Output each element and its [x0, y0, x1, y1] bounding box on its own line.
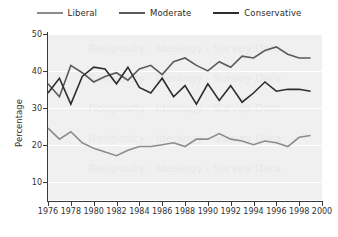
- plot-area: Religiosity · Ideology · Survey DataReli…: [0, 0, 338, 237]
- series-lines: [0, 0, 338, 237]
- chart-root: Liberal Moderate Conservative Religiosit…: [0, 0, 338, 237]
- line-liberal: [48, 128, 311, 156]
- line-conservative: [48, 67, 311, 104]
